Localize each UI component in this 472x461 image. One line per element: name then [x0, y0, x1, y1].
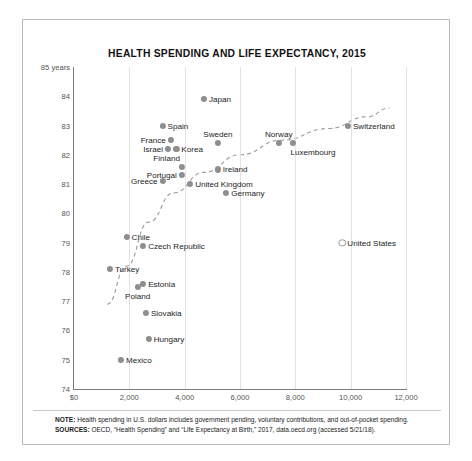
- y-axis-tick-label: 76: [62, 326, 70, 335]
- y-axis-tick-label: 78: [62, 267, 70, 276]
- gridline: [295, 67, 296, 389]
- gridline: [185, 67, 186, 389]
- y-axis-tick-label: 82: [62, 150, 70, 159]
- data-point-label: Japan: [209, 95, 231, 104]
- sources-label: SOURCES:: [55, 426, 90, 433]
- data-point-label: Hungary: [154, 335, 185, 344]
- gridline: [129, 67, 130, 389]
- data-point-label: France: [141, 136, 166, 145]
- data-point-label: Estonia: [148, 279, 175, 288]
- scatter-plot-area: $02,0004,0006,0008,00010,00012,00085 yea…: [74, 67, 406, 389]
- data-point-label: Israel: [143, 144, 163, 153]
- y-axis-tick-label: 77: [62, 297, 70, 306]
- gridline: [406, 67, 407, 389]
- y-axis-tick-label: 84: [62, 92, 70, 101]
- data-point-label: United Kingdom: [195, 180, 253, 189]
- gridline: [351, 67, 352, 389]
- data-point-label: Korea: [181, 144, 203, 153]
- x-axis-tick-label: 6,000: [230, 393, 249, 402]
- x-axis-tick-label: 8,000: [286, 393, 305, 402]
- x-axis-tick-label: 10,000: [339, 393, 362, 402]
- y-axis-tick-label: 83: [62, 121, 70, 130]
- chart-title: HEALTH SPENDING AND LIFE EXPECTANCY, 201…: [23, 48, 451, 59]
- x-axis-tick-label: 2,000: [120, 393, 139, 402]
- data-point-label: Slovakia: [151, 308, 182, 317]
- note-line: NOTE: Health spending in U.S. dollars in…: [55, 415, 463, 424]
- chart-frame: HEALTH SPENDING AND LIFE EXPECTANCY, 201…: [22, 19, 450, 445]
- y-axis-tick-label: 81: [62, 180, 70, 189]
- sources-text: OECD, “Health Spending” and “Life Expect…: [90, 426, 376, 433]
- y-axis-tick-label: 79: [62, 238, 70, 247]
- x-axis-tick-label: 12,000: [394, 393, 417, 402]
- y-axis-tick-label: 74: [62, 385, 70, 394]
- data-point-label: Norway: [265, 130, 292, 139]
- data-point-label: Poland: [125, 291, 150, 300]
- data-point-label: Mexico: [126, 355, 152, 364]
- notes-divider: [33, 410, 441, 411]
- chart-page: HEALTH SPENDING AND LIFE EXPECTANCY, 201…: [0, 0, 472, 461]
- y-axis-tick-label: 85 years: [41, 63, 70, 72]
- data-point-label: Switzerland: [353, 121, 395, 130]
- notes-block: NOTE: Health spending in U.S. dollars in…: [55, 415, 463, 435]
- data-point-label: Germany: [231, 188, 264, 197]
- y-axis-tick-label: 80: [62, 209, 70, 218]
- sources-line: SOURCES: OECD, “Health Spending” and “Li…: [55, 425, 463, 434]
- data-point-label: Greece: [131, 177, 158, 186]
- data-point-label: United States: [347, 238, 396, 247]
- y-axis-tick-label: 75: [62, 355, 70, 364]
- data-point-label: Czech Republic: [148, 241, 205, 250]
- data-point-label: Finland: [153, 154, 180, 163]
- data-point-label: Sweden: [203, 130, 232, 139]
- data-point-label: Spain: [168, 121, 189, 130]
- data-point-label: Luxembourg: [291, 148, 336, 157]
- data-point-label: Chile: [132, 232, 150, 241]
- note-text: Health spending in U.S. dollars includes…: [75, 416, 408, 423]
- x-axis-tick-label: $0: [70, 393, 78, 402]
- x-axis-line: [73, 389, 407, 390]
- note-label: NOTE:: [55, 416, 75, 423]
- data-point-label: Turkey: [115, 264, 139, 273]
- gridline: [240, 67, 241, 389]
- x-axis-tick-label: 4,000: [175, 393, 194, 402]
- data-point-label: Ireland: [223, 165, 248, 174]
